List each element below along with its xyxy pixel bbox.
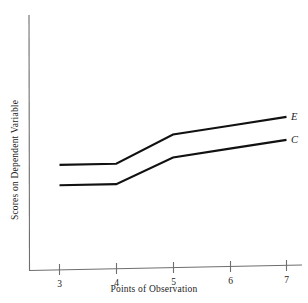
y-axis-line — [29, 15, 30, 270]
series-label-e: E — [290, 111, 298, 122]
y-axis-title: Scores on Dependent Variable — [10, 60, 20, 260]
x-axis-title: Points of Observation — [0, 284, 308, 294]
x-axis-line — [29, 265, 302, 271]
series-label-c: C — [291, 134, 299, 145]
line-chart: 3 4 5 6 7 E C Points of Observation Scor… — [0, 0, 308, 303]
series-line-c — [60, 140, 287, 185]
chart-plot-area: 3 4 5 6 7 E C — [0, 0, 308, 303]
